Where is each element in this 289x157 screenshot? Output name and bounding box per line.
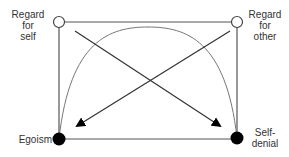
- label-self-denial: Self- denial: [245, 127, 285, 149]
- arrow-other-to-egoism: [77, 31, 230, 126]
- node-regard-for-self: [54, 17, 65, 28]
- node-self-denial: [231, 132, 244, 145]
- label-regard-for-self: Regard for self: [8, 9, 48, 42]
- node-egoism: [53, 133, 66, 146]
- node-regard-for-other: [232, 17, 243, 28]
- label-regard-for-other: Regard for other: [245, 9, 285, 42]
- arrow-self-to-selfdenial: [75, 31, 220, 126]
- label-egoism: Egoism: [8, 134, 52, 145]
